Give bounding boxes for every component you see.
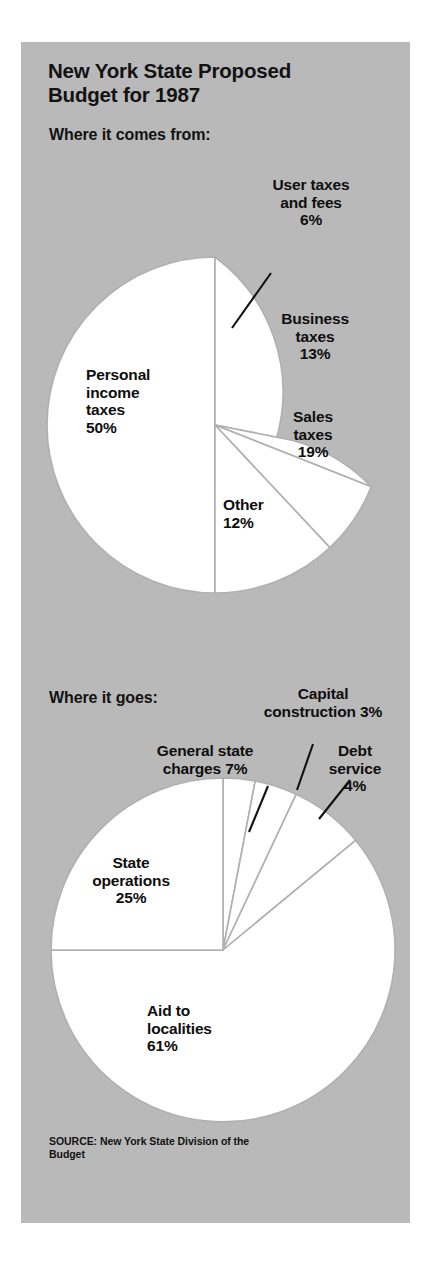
infographic-panel: New York State Proposed Budget for 1987 … (21, 42, 410, 1223)
pie-label-aid-to-localities: Aid to localities 61% (147, 1002, 287, 1055)
pie-label-capital-construction: Capital construction 3% (237, 685, 409, 720)
source-note: SOURCE: New York State Division of the B… (49, 1135, 369, 1162)
pie-label-state-operations: State operations 25% (48, 854, 214, 907)
pie-label-debt-service: Debt service 4% (309, 742, 401, 795)
pie-label-general-state-charges: General state charges 7% (124, 742, 286, 777)
